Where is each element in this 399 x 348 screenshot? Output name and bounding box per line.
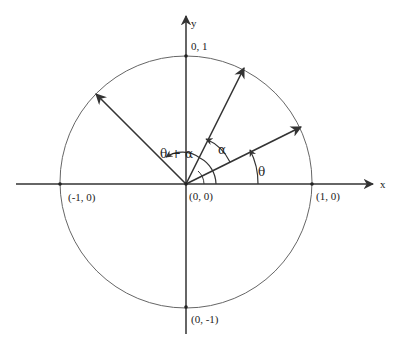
arc-theta	[250, 150, 258, 184]
point-pos-y	[184, 54, 188, 58]
label-neg-x: (-1, 0)	[68, 191, 96, 204]
label-pos-y: 0, 1	[191, 40, 208, 52]
label-pos-x: (1, 0)	[316, 190, 340, 203]
point-neg-x	[58, 182, 62, 186]
unit-circle-diagram: y x 0, 1 (0, 0) (1, 0) (-1, 0) (0, -1) θ…	[0, 0, 399, 348]
label-origin: (0, 0)	[189, 190, 213, 203]
ray-theta	[186, 127, 301, 184]
label-neg-y: (0, -1)	[191, 313, 219, 326]
label-alpha: α	[218, 143, 226, 157]
x-axis-label: x	[380, 178, 386, 190]
label-theta-plus-alpha: θ + α	[160, 147, 193, 161]
point-origin	[184, 182, 188, 186]
ray-theta-plus-alpha	[96, 94, 186, 184]
ray-theta-plus-alpha-inner	[186, 68, 244, 184]
label-theta: θ	[258, 165, 265, 179]
point-pos-x	[310, 182, 314, 186]
point-neg-y	[184, 305, 188, 309]
y-axis-label: y	[191, 17, 197, 29]
